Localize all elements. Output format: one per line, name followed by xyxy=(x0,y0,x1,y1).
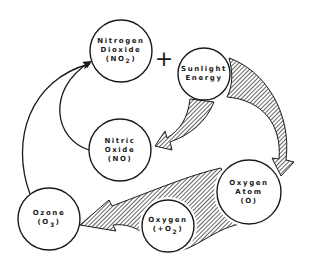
o-atom-line3: (O) xyxy=(229,197,268,206)
sunlight-line1: Sunlight xyxy=(181,65,227,74)
no2-close-paren: ) xyxy=(131,55,136,63)
node-sunlight-label: Sunlight Energy xyxy=(181,65,227,83)
plus-sign: + xyxy=(155,48,173,70)
sunlight-to-o-atom-arrow xyxy=(227,58,294,176)
node-no2-label: Nitrogen Dioxide (NO2) xyxy=(97,37,144,65)
no-line3: (NO) xyxy=(104,155,135,164)
node-no-label: Nitric Oxide (NO) xyxy=(104,137,135,164)
node-o-atom-label: Oxygen Atom (O) xyxy=(229,179,268,206)
sunlight-line2: Energy xyxy=(181,74,227,83)
no2-formula: (NO xyxy=(106,55,126,63)
no-line1: Nitric xyxy=(104,137,135,146)
no2-line1: Nitrogen xyxy=(97,37,144,46)
o2-close-paren: ) xyxy=(178,225,183,233)
node-ozone-label: Ozone (O3) xyxy=(33,209,66,228)
ozone-line1: Ozone xyxy=(33,209,66,218)
ozone-close-paren: ) xyxy=(56,218,61,226)
ozone-formation-cycle-diagram: + Nitrogen Dioxide (NO2) Sunlight Energy… xyxy=(0,0,311,269)
sunlight-to-no-arrow xyxy=(155,99,214,150)
o-atom-line1: Oxygen xyxy=(229,179,268,188)
ozone-line2: (O3) xyxy=(33,218,66,228)
no-line2: Oxide xyxy=(104,146,135,155)
o-atom-line2: Atom xyxy=(229,188,268,197)
ozone-formula: (O xyxy=(38,218,50,226)
o2-formula: (+O xyxy=(153,225,173,233)
o2-line2: (+O2) xyxy=(148,225,187,235)
ozone-to-no2-arrow xyxy=(22,64,89,194)
no2-line2: Dioxide xyxy=(97,46,144,55)
o2-line1: Oxygen xyxy=(148,216,187,225)
no2-line3: (NO2) xyxy=(97,55,144,65)
node-o2-label: Oxygen (+O2) xyxy=(148,216,187,235)
